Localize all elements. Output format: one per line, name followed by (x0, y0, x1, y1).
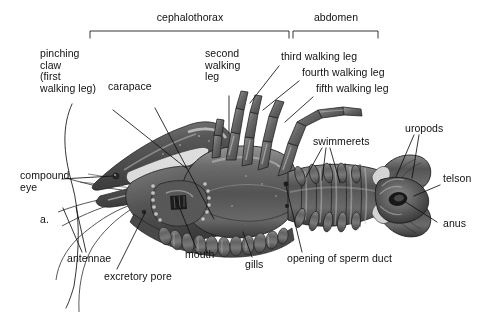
label-fifth-walking-leg: fifth walking leg (316, 83, 389, 95)
label-pinching-claw: pinching claw (first walking leg) (40, 48, 96, 94)
crayfish-anatomy-figure: cephalothorax abdomen pinching claw (fir… (0, 0, 489, 320)
label-second-walking-leg: second walking leg (205, 48, 240, 83)
label-gills: gills (245, 259, 263, 271)
label-opening-of-sperm-duct: opening of sperm duct (287, 253, 392, 265)
label-telson: telson (443, 173, 471, 185)
label-swimmerets: swimmerets (313, 136, 370, 148)
label-third-walking-leg: third walking leg (281, 51, 357, 63)
label-mouth: mouth (185, 249, 214, 261)
label-uropods: uropods (405, 123, 443, 135)
tail-fan-art (372, 155, 431, 237)
label-antennae: antennae (67, 253, 111, 265)
label-panel-a: a. (40, 214, 49, 226)
compound-eye-art (113, 173, 119, 179)
label-fourth-walking-leg: fourth walking leg (302, 67, 385, 79)
bracket-label-cephalothorax: cephalothorax (130, 12, 250, 24)
label-anus: anus (443, 218, 466, 230)
label-compound-eye: compound eye (20, 170, 69, 193)
label-carapace: carapace (108, 81, 152, 93)
label-excretory-pore: excretory pore (104, 271, 172, 283)
sperm-duct-art (284, 182, 289, 187)
bracket-label-abdomen: abdomen (292, 12, 380, 24)
